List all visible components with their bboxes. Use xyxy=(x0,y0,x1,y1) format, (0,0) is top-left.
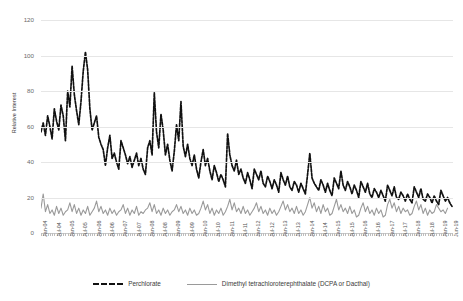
x-axis-tick-label: Jan-12 xyxy=(256,221,261,237)
x-axis-tick-label: Jan-19 xyxy=(443,221,448,237)
chart-container: Relative Interest 020406080100120 Jan-04… xyxy=(0,0,463,301)
series-line-perchlorate xyxy=(41,52,452,206)
x-axis-tick-label: Jan-09 xyxy=(176,221,181,237)
x-axis-tick xyxy=(157,233,158,236)
x-axis-tick xyxy=(412,233,413,236)
x-axis-tick xyxy=(385,233,386,236)
chart-legend: Perchlorate Dimethyl tetrachloroterephth… xyxy=(0,281,463,287)
x-axis-tick xyxy=(92,233,93,236)
x-axis-tick-label: Jan-10 xyxy=(203,221,208,237)
x-axis-tick xyxy=(52,233,53,236)
x-axis-tick xyxy=(252,233,253,236)
x-axis-tick-label: Jan-14 xyxy=(310,221,315,237)
x-axis-tick-label: Jan-18 xyxy=(416,221,421,237)
x-axis-tick-label: Jul-09 xyxy=(190,222,195,237)
y-axis-tick-label: 40 xyxy=(10,159,34,165)
x-axis-tick-label: Jul-13 xyxy=(296,222,301,237)
x-axis-tick xyxy=(197,233,198,236)
x-axis-tick xyxy=(383,233,384,236)
x-axis-tick-label: Jul-07 xyxy=(137,222,142,237)
x-axis-tick xyxy=(159,233,160,236)
x-axis-tick xyxy=(332,233,333,236)
x-axis-tick xyxy=(65,233,66,236)
x-axis-tick xyxy=(410,233,411,236)
x-axis-tick-label: Jan-11 xyxy=(230,221,235,237)
legend-label: Perchlorate xyxy=(128,281,161,287)
x-axis-tick xyxy=(276,233,277,236)
x-axis-tick-label: Jan-04 xyxy=(43,221,48,237)
gridline xyxy=(41,91,453,92)
x-axis-tick xyxy=(423,233,424,236)
x-axis-tick-label: Jan-08 xyxy=(150,221,155,237)
x-axis-tick xyxy=(303,233,304,236)
x-axis-tick xyxy=(450,233,451,236)
x-axis-tick-label: Jul-12 xyxy=(270,222,275,237)
x-axis-tick xyxy=(330,233,331,236)
x-axis-tick xyxy=(210,233,211,236)
gridline xyxy=(41,56,453,57)
x-axis-tick xyxy=(239,233,240,236)
x-axis-tick xyxy=(305,233,306,236)
y-axis-tick-label: 80 xyxy=(10,88,34,94)
y-axis-tick-label: 100 xyxy=(10,53,34,59)
x-axis-tick xyxy=(399,233,400,236)
x-axis-tick-label: Jul-10 xyxy=(216,222,221,237)
x-axis-tick xyxy=(396,233,397,236)
x-axis-tick xyxy=(130,233,131,236)
x-axis-tick xyxy=(292,233,293,236)
x-axis-tick-label: Jul-11 xyxy=(243,223,248,237)
legend-solid-line-icon xyxy=(187,284,217,285)
x-axis-tick xyxy=(439,233,440,236)
y-axis-tick-label: 0 xyxy=(10,230,34,236)
x-axis-tick xyxy=(90,233,91,236)
x-axis-tick-label: Jul-14 xyxy=(323,222,328,237)
gridline xyxy=(41,162,453,163)
x-axis-tick xyxy=(79,233,80,236)
x-axis-tick xyxy=(105,233,106,236)
x-axis-tick-label: Jul-05 xyxy=(83,222,88,237)
x-axis-tick-label: Jul-15 xyxy=(350,222,355,237)
x-axis-tick xyxy=(425,233,426,236)
x-axis-tick-label: Jan-15 xyxy=(336,221,341,237)
x-axis-tick-label: Jan-05 xyxy=(70,221,75,237)
x-axis-tick-labels: Jan-04Jul-04Jan-05Jul-05Jan-06Jul-06Jan-… xyxy=(41,237,453,277)
plot-area xyxy=(41,20,453,233)
x-axis-tick xyxy=(370,233,371,236)
x-axis-tick xyxy=(50,233,51,236)
x-axis-tick xyxy=(170,233,171,236)
x-axis-tick xyxy=(372,233,373,236)
x-axis-tick xyxy=(63,233,64,236)
x-axis-tick-label: Jan-06 xyxy=(97,221,102,237)
x-axis-tick xyxy=(237,233,238,236)
x-axis-tick xyxy=(183,233,184,236)
x-axis-tick-label: Jul-18 xyxy=(430,222,435,237)
x-axis-tick xyxy=(212,233,213,236)
x-axis-tick xyxy=(77,233,78,236)
y-axis-tick-label: 120 xyxy=(10,17,34,23)
x-axis-tick xyxy=(359,233,360,236)
x-axis-tick xyxy=(172,233,173,236)
legend-label: Dimethyl tetrachloroterephthalate (DCPA … xyxy=(222,281,370,287)
gridline xyxy=(41,198,453,199)
x-axis-tick xyxy=(199,233,200,236)
x-axis-tick-label: Jan-17 xyxy=(390,221,395,237)
x-axis-tick xyxy=(132,233,133,236)
y-axis-tick-labels: 020406080100120 xyxy=(10,0,34,301)
legend-item-dcpa[interactable]: Dimethyl tetrachloroterephthalate (DCPA … xyxy=(187,281,370,287)
x-axis-tick xyxy=(223,233,224,236)
legend-dashed-line-icon xyxy=(93,283,123,285)
x-axis-tick xyxy=(117,233,118,236)
x-axis-tick xyxy=(119,233,120,236)
x-axis-tick-label: Jan-07 xyxy=(123,221,128,237)
legend-item-perchlorate[interactable]: Perchlorate xyxy=(93,281,161,287)
x-axis-tick xyxy=(250,233,251,236)
x-axis-tick-label: Jul-08 xyxy=(163,222,168,237)
x-axis-tick xyxy=(316,233,317,236)
x-axis-tick-label: Jan-13 xyxy=(283,221,288,237)
x-axis-tick-label: Jul-06 xyxy=(110,222,115,237)
y-axis-tick-label: 20 xyxy=(10,195,34,201)
x-axis-tick-label: Jun-19 xyxy=(454,221,459,237)
y-axis-tick-label: 60 xyxy=(10,124,34,130)
x-axis-tick xyxy=(279,233,280,236)
x-axis-tick xyxy=(356,233,357,236)
